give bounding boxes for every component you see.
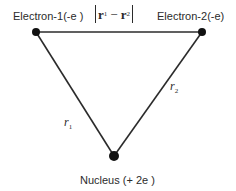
nucleus-dot [109,151,119,161]
r1-sub: 1 [69,123,73,131]
triangle-graphic [0,0,236,191]
r2-subscript: 2 [126,11,130,18]
abs-bar-left [95,5,96,23]
edge-r1 [36,32,114,156]
edge-r2 [114,32,202,156]
r2-label: r2 [170,80,178,95]
electron2-dot [198,28,206,36]
electron1-dot [32,28,40,36]
helium-atom-diagram: Electron-1(-e ) Electron-2(-e) Nucleus (… [0,0,236,191]
electron2-label: Electron-2(-e) [157,11,224,22]
electron1-label: Electron-1(-e ) [13,11,83,22]
r2-sub: 2 [175,87,179,95]
nucleus-label: Nucleus (+ 2e ) [80,175,155,186]
separation-formula: r1 − r2 [93,5,135,23]
minus-sign: − [110,8,117,21]
r1-label: r1 [64,116,72,131]
abs-bar-right [132,5,133,23]
r1-subscript: 1 [104,11,108,18]
